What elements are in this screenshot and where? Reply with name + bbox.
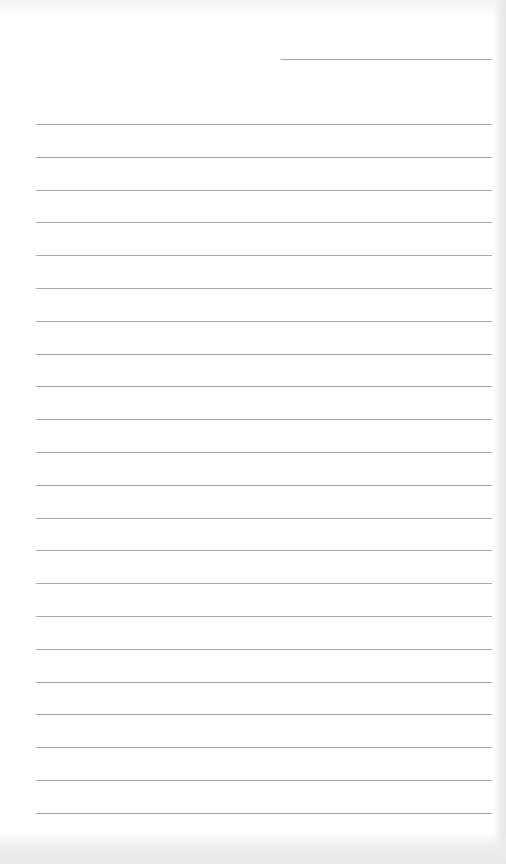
ruled-line — [36, 255, 492, 256]
ruled-line — [36, 419, 492, 420]
ruled-lines — [36, 0, 492, 864]
lined-paper-page — [0, 0, 506, 864]
ruled-line — [36, 518, 492, 519]
ruled-line — [36, 354, 492, 355]
ruled-line — [36, 222, 492, 223]
ruled-line — [36, 649, 492, 650]
ruled-line — [36, 714, 492, 715]
ruled-line — [36, 321, 492, 322]
ruled-line — [36, 583, 492, 584]
ruled-line — [36, 616, 492, 617]
ruled-line — [36, 190, 492, 191]
ruled-line — [36, 124, 492, 125]
ruled-line — [36, 452, 492, 453]
right-edge-shadow — [494, 0, 506, 864]
ruled-line — [36, 485, 492, 486]
ruled-line — [36, 780, 492, 781]
ruled-line — [36, 747, 492, 748]
ruled-line — [36, 550, 492, 551]
ruled-line — [36, 386, 492, 387]
ruled-line — [36, 682, 492, 683]
ruled-line — [36, 813, 492, 814]
ruled-line — [36, 288, 492, 289]
ruled-line — [36, 157, 492, 158]
